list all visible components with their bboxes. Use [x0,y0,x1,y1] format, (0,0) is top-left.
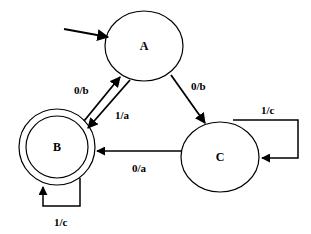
state-c-label: C [216,150,225,164]
edge-b-to-a-label: 0/b [74,84,89,96]
start-arrow [64,29,108,37]
edge-c-to-b-label: 0/a [132,162,147,174]
edge-a-to-c-label: 0/b [191,80,206,92]
state-b-label: B [53,140,61,154]
edge-a-to-b-label: 1/a [115,109,130,121]
edge-b-self-label: 1/c [54,216,68,228]
state-diagram: A B C 0/b 1/a 0/b 0/a 1/c 1/c [0,0,311,234]
edge-c-self-label: 1/c [261,104,275,116]
state-c: C [181,122,259,192]
edge-c-self-loop [233,120,298,158]
state-a: A [105,11,183,81]
state-a-label: A [140,39,149,53]
edge-b-self-loop [43,178,80,206]
